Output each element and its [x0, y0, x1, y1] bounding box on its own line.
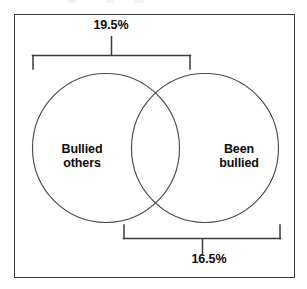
bottom-bracket	[124, 225, 281, 254]
venn-diagram-figure: Bullied others Been bullied 19.5% 16.5%	[0, 0, 307, 289]
percentage-label-bullied-others: 19.5%	[62, 18, 160, 32]
top-bracket	[33, 36, 191, 69]
set-label-been-bullied: Been bullied	[196, 142, 282, 170]
percentage-label-been-bullied: 16.5%	[160, 252, 258, 266]
set-label-bullied-others: Bullied others	[39, 142, 125, 170]
